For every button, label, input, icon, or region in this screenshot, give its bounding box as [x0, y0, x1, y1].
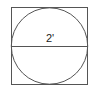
inscribed-circle: [11, 8, 87, 84]
diagram-canvas: [0, 0, 104, 92]
diameter-label: 2': [42, 32, 58, 44]
